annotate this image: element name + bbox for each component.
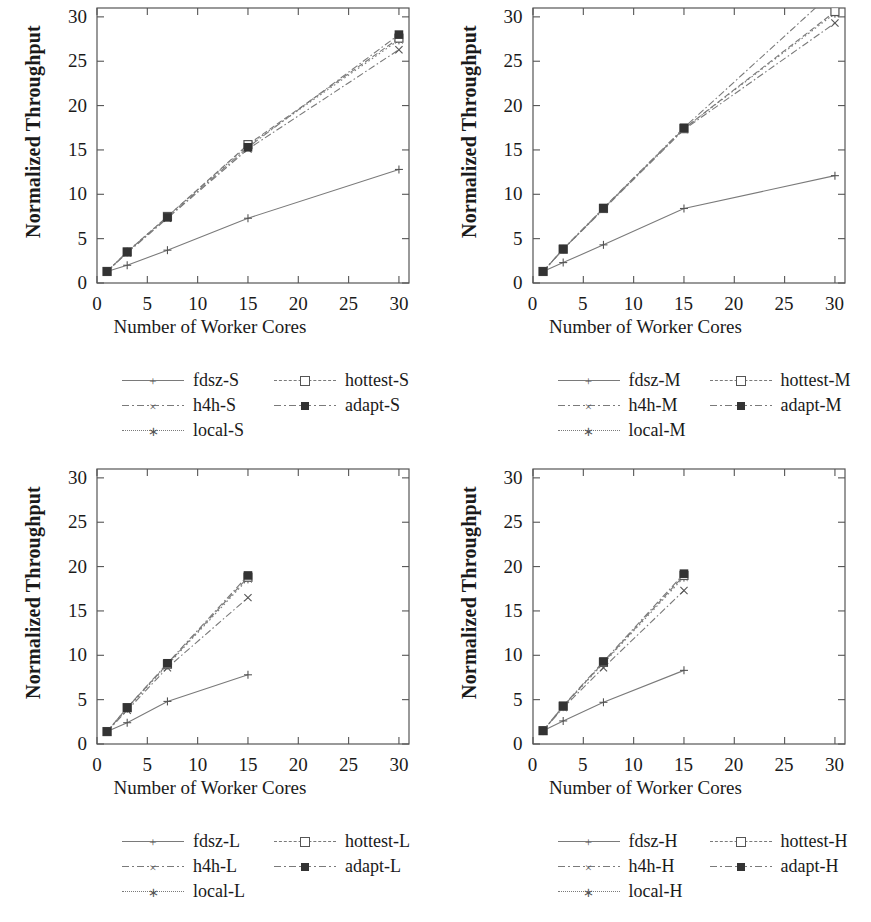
star-icon: ∗ bbox=[148, 885, 159, 898]
legend-item-fdsz-H[interactable]: +fdsz-H bbox=[558, 831, 710, 852]
legend-swatch bbox=[274, 374, 336, 388]
legend-label: local-S bbox=[193, 420, 244, 441]
data-point-filled-square-marker bbox=[244, 571, 253, 580]
legend-s: +fdsz-Shottest-S×h4h-Sadapt-S∗local-S bbox=[122, 368, 409, 443]
legend-item-fdsz-S[interactable]: +fdsz-S bbox=[122, 370, 274, 391]
data-point-filled-square-marker bbox=[103, 267, 112, 276]
legend-swatch: + bbox=[558, 374, 620, 388]
legend-item-h4h-M[interactable]: ×h4h-M bbox=[558, 395, 710, 416]
data-point-filled-square-marker bbox=[123, 703, 132, 712]
legend-item-local-H[interactable]: ∗local-H bbox=[558, 881, 710, 902]
series-line bbox=[543, 670, 684, 730]
legend-label: adapt-S bbox=[345, 395, 400, 416]
x-axis-label: Number of Worker Cores bbox=[0, 316, 420, 338]
data-point-plus-marker bbox=[830, 172, 838, 180]
legend-item-fdsz-L[interactable]: +fdsz-L bbox=[122, 831, 274, 852]
panel-s: Normalized ThroughputNumber of Worker Co… bbox=[0, 0, 436, 461]
legend-item-local-L[interactable]: ∗local-L bbox=[122, 881, 274, 902]
series-line bbox=[107, 169, 399, 271]
series-fdsz-M bbox=[539, 172, 839, 276]
legend-row: ∗local-S bbox=[122, 418, 409, 443]
legend-swatch: ∗ bbox=[558, 885, 620, 899]
data-point-plus-marker bbox=[679, 204, 687, 212]
legend-item-adapt-S[interactable]: adapt-S bbox=[274, 395, 400, 416]
plot-frame bbox=[97, 8, 409, 283]
legend-item-adapt-H[interactable]: adapt-H bbox=[710, 856, 839, 877]
legend-label: adapt-H bbox=[781, 856, 839, 877]
plot-area bbox=[436, 0, 871, 300]
plus-icon: + bbox=[149, 835, 156, 848]
legend-swatch: ∗ bbox=[122, 885, 184, 899]
legend-row: ×h4h-Madapt-M bbox=[558, 393, 851, 418]
series-line bbox=[543, 13, 835, 271]
legend-row: ∗local-H bbox=[558, 879, 848, 904]
open-square-icon bbox=[736, 376, 746, 386]
cross-icon: × bbox=[585, 860, 592, 873]
plus-icon: + bbox=[149, 374, 156, 387]
legend-swatch bbox=[274, 399, 336, 413]
data-point-cross-marker bbox=[831, 19, 838, 26]
series-local-S bbox=[103, 36, 402, 276]
data-point-plus-marker bbox=[123, 261, 131, 269]
legend-swatch: ∗ bbox=[558, 424, 620, 438]
legend-item-local-S[interactable]: ∗local-S bbox=[122, 420, 274, 441]
legend-item-local-M[interactable]: ∗local-M bbox=[558, 420, 710, 441]
legend-label: hottest-H bbox=[781, 831, 848, 852]
legend-label: h4h-M bbox=[629, 395, 678, 416]
legend-row: +fdsz-Hhottest-H bbox=[558, 829, 848, 854]
legend-label: local-H bbox=[629, 881, 683, 902]
panel-m: Normalized ThroughputNumber of Worker Co… bbox=[436, 0, 871, 461]
legend-item-adapt-L[interactable]: adapt-L bbox=[274, 856, 401, 877]
legend-label: fdsz-S bbox=[193, 370, 239, 391]
series-fdsz-H bbox=[539, 666, 688, 734]
legend-item-h4h-H[interactable]: ×h4h-H bbox=[558, 856, 710, 877]
series-fdsz-S bbox=[103, 165, 403, 275]
legend-label: hottest-S bbox=[345, 370, 409, 391]
series-hottest-M bbox=[539, 8, 839, 276]
plot-frame bbox=[97, 469, 409, 744]
data-point-filled-square-marker bbox=[538, 726, 547, 735]
star-icon: ∗ bbox=[583, 885, 594, 898]
legend-item-hottest-L[interactable]: hottest-L bbox=[274, 831, 410, 852]
legend-row: ×h4h-Hadapt-H bbox=[558, 854, 848, 879]
series-hottest-H bbox=[539, 571, 688, 734]
series-h4h-S bbox=[103, 46, 402, 275]
legend-swatch: ∗ bbox=[122, 424, 184, 438]
plot-area bbox=[0, 0, 435, 300]
data-point-filled-square-marker bbox=[679, 569, 688, 578]
legend-swatch: × bbox=[122, 860, 184, 874]
data-point-filled-square-marker bbox=[599, 657, 608, 666]
series-line bbox=[543, 0, 835, 271]
legend-item-adapt-M[interactable]: adapt-M bbox=[710, 395, 842, 416]
legend-item-h4h-S[interactable]: ×h4h-S bbox=[122, 395, 274, 416]
data-point-filled-square-marker bbox=[558, 702, 567, 711]
legend-row: ∗local-M bbox=[558, 418, 851, 443]
legend-item-hottest-M[interactable]: hottest-M bbox=[710, 370, 851, 391]
legend-item-h4h-L[interactable]: ×h4h-L bbox=[122, 856, 274, 877]
legend-swatch: × bbox=[558, 399, 620, 413]
legend-item-hottest-S[interactable]: hottest-S bbox=[274, 370, 409, 391]
legend-item-hottest-H[interactable]: hottest-H bbox=[710, 831, 848, 852]
plus-icon: + bbox=[585, 835, 592, 848]
series-h4h-M bbox=[539, 19, 838, 275]
legend-swatch bbox=[710, 399, 772, 413]
legend-label: h4h-H bbox=[629, 856, 675, 877]
legend-swatch bbox=[274, 860, 336, 874]
plot-frame bbox=[533, 8, 845, 283]
data-point-plus-marker bbox=[599, 241, 607, 249]
legend-label: adapt-L bbox=[345, 856, 401, 877]
filled-square-icon bbox=[737, 402, 745, 410]
cross-icon: × bbox=[149, 399, 156, 412]
legend-item-fdsz-M[interactable]: +fdsz-M bbox=[558, 370, 710, 391]
series-line bbox=[107, 40, 399, 272]
open-square-icon bbox=[736, 837, 746, 847]
plot-area bbox=[0, 461, 435, 761]
legend-label: h4h-S bbox=[193, 395, 236, 416]
legend-swatch bbox=[710, 835, 772, 849]
data-point-plus-marker bbox=[244, 214, 252, 222]
legend-swatch bbox=[274, 835, 336, 849]
legend-swatch bbox=[710, 374, 772, 388]
data-point-plus-marker bbox=[244, 671, 252, 679]
star-icon: ∗ bbox=[583, 424, 594, 437]
legend-label: fdsz-H bbox=[629, 831, 678, 852]
